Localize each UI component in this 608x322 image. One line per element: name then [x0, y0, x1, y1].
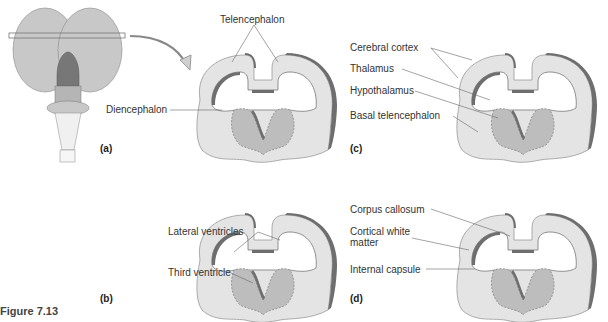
label-thalamus: Thalamus	[350, 63, 394, 74]
label-diencephalon: Diencephalon	[106, 104, 167, 115]
label-hypothalamus: Hypothalamus	[350, 85, 414, 96]
figure-caption: Figure 7.13	[0, 305, 58, 317]
label-cortical-white-matter: Cortical white matter	[350, 226, 420, 248]
label-corpus-callosum: Corpus callosum	[350, 204, 424, 215]
label-cerebral-cortex: Cerebral cortex	[350, 42, 418, 53]
label-third-ventricle: Third ventricle	[168, 267, 231, 278]
label-telencephalon: Telencephalon	[220, 14, 285, 25]
label-internal-capsule: Internal capsule	[350, 264, 421, 275]
section-d	[457, 213, 597, 322]
section-top-middle	[197, 53, 337, 162]
panel-label-c: (c)	[350, 143, 362, 154]
label-basal-telencephalon: Basal telencephalon	[350, 110, 440, 121]
brain-dorsal-view	[9, 8, 191, 162]
label-lateral-ventricles: Lateral ventricles	[168, 226, 244, 237]
panel-label-b: (b)	[100, 293, 113, 304]
panel-label-a: (a)	[100, 143, 112, 154]
panel-label-d: (d)	[350, 293, 363, 304]
diagram-canvas	[0, 0, 608, 322]
section-c	[457, 53, 597, 162]
